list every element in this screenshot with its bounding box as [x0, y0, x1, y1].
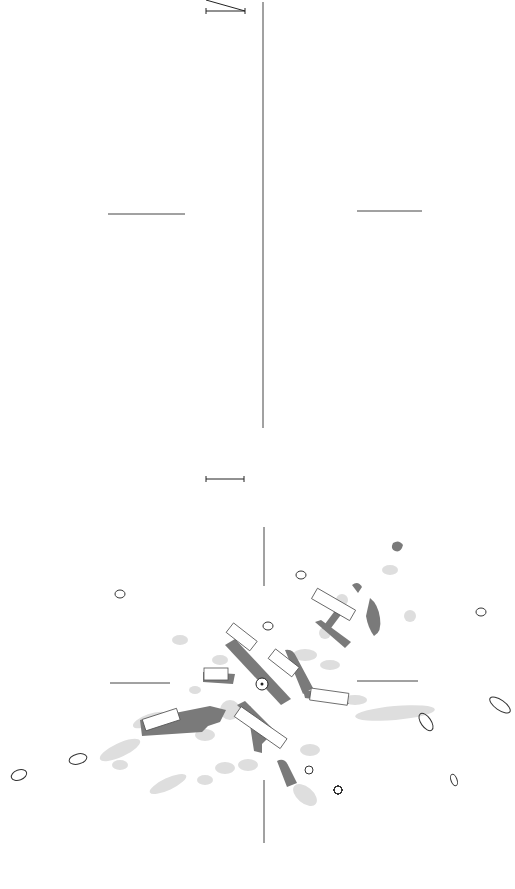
arm-blob — [277, 760, 297, 787]
arm-blob — [225, 639, 291, 705]
arm-blob — [352, 583, 362, 593]
panel-a — [108, 0, 422, 428]
arm-blob — [392, 541, 403, 551]
figure: I've lost track of what I was writing: t… — [0, 0, 515, 889]
sun-symbol — [256, 678, 268, 690]
scale-bar-a — [206, 0, 245, 14]
scale-bar-b — [206, 476, 244, 482]
spiral-arm-segments — [140, 541, 403, 787]
arm-blob — [366, 598, 380, 636]
panel-b: I've lost track of what I was writing: t… — [10, 476, 513, 843]
